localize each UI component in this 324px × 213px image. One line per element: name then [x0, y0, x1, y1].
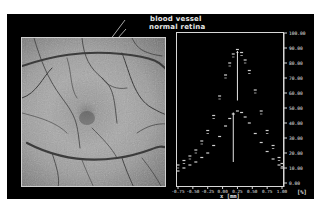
data-point: [240, 52, 243, 53]
data-point: [254, 133, 257, 134]
data-point: [281, 163, 284, 164]
data-point: [228, 118, 231, 119]
data-point: [182, 160, 185, 161]
x-tick-label: 1.00: [277, 189, 288, 194]
data-point: [206, 152, 209, 153]
data-point: [200, 157, 203, 158]
data-point: [224, 74, 227, 75]
data-point: [228, 62, 231, 63]
x-tick-label: -0.75: [172, 189, 185, 194]
data-point: [218, 136, 221, 137]
data-point: [182, 167, 185, 168]
data-point: [278, 164, 281, 165]
data-point: [194, 149, 197, 150]
data-point: [272, 158, 275, 159]
data-point: [278, 157, 281, 158]
data-point: [200, 140, 203, 141]
x-tick-label: -0.50: [186, 189, 199, 194]
y-tick-label: 0.00: [289, 181, 300, 186]
data-point: [244, 59, 247, 60]
data-point: [281, 167, 284, 168]
data-point: [212, 115, 215, 116]
y-tick-label: 90.00: [289, 46, 303, 51]
y-tick-label: 40.00: [289, 121, 303, 126]
data-point: [248, 70, 251, 71]
data-point: [212, 145, 215, 146]
data-point: [232, 53, 235, 54]
y-axis-unit-label: [%]: [297, 189, 307, 195]
data-point: [206, 130, 209, 131]
y-tick-label: 70.00: [289, 76, 303, 81]
y-tick-label: 30.00: [289, 136, 303, 141]
x-tick-label: 0.75: [262, 189, 273, 194]
y-tick-label: 20.00: [289, 151, 303, 156]
y-tick-label: 100.00: [289, 31, 306, 36]
data-point: [236, 110, 239, 111]
data-point: [240, 112, 243, 113]
data-point: [218, 95, 221, 96]
data-point: [248, 122, 251, 123]
data-point: [194, 161, 197, 162]
plot-frame: [177, 33, 284, 187]
data-point: [260, 142, 263, 143]
data-point: [188, 155, 191, 156]
data-point: [272, 145, 275, 146]
data-point: [224, 125, 227, 126]
data-point: [260, 110, 263, 111]
data-point: [177, 170, 180, 171]
y-axis: 0.0010.0020.0030.0040.0050.0060.0070.008…: [284, 31, 306, 187]
y-tick-label: 60.00: [289, 91, 303, 96]
data-point: [266, 130, 269, 131]
y-tick-label: 10.00: [289, 166, 303, 171]
data-point: [266, 151, 269, 152]
data-point: [188, 164, 191, 165]
intensity-chart: 0.0010.0020.0030.0040.0050.0060.0070.008…: [0, 0, 324, 213]
data-point: [177, 164, 180, 165]
data-point: [244, 116, 247, 117]
y-tick-label: 80.00: [289, 61, 303, 66]
data-point: [236, 49, 239, 50]
x-tick-label: -0.25: [201, 189, 214, 194]
data-series: [177, 49, 284, 172]
x-axis-label: x [mm]: [220, 193, 240, 199]
x-tick-label: 0.50: [247, 189, 258, 194]
y-tick-label: 50.00: [289, 106, 303, 111]
data-point: [254, 89, 257, 90]
